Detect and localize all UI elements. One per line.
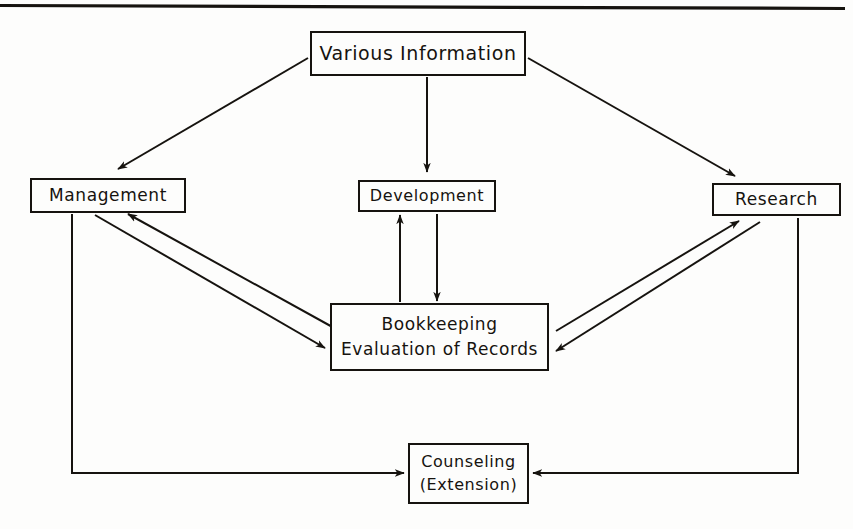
node-bookkeeping[interactable]: Bookkeeping Evaluation of Records [330,303,549,371]
node-bookkeeping-label-line1: Bookkeeping [381,314,497,335]
node-various-information[interactable]: Various Information [310,31,526,76]
node-research-label: Research [735,189,818,210]
edge-various-information-to-management [118,58,308,169]
edge-management-to-bookkeeping [95,215,325,348]
diagram-page: Various Information Management Developme… [0,0,853,529]
node-bookkeeping-label-line2: Evaluation of Records [341,339,538,360]
edge-bookkeeping-to-management [128,214,336,329]
edge-research-to-bookkeeping [556,222,760,351]
edge-bookkeeping-to-research [556,221,739,331]
edge-research-to-counseling [533,218,798,473]
node-various-information-label: Various Information [319,42,516,65]
node-counseling-label-line1: Counseling [421,452,516,472]
edge-various-information-to-research [528,58,735,176]
node-management-label: Management [49,185,167,206]
node-development[interactable]: Development [358,180,496,212]
node-counseling[interactable]: Counseling (Extension) [408,443,529,504]
node-management[interactable]: Management [30,178,186,213]
node-development-label: Development [370,186,484,206]
node-research[interactable]: Research [712,183,841,216]
node-counseling-label-line2: (Extension) [420,475,518,495]
top-horizontal-rule [0,6,845,9]
